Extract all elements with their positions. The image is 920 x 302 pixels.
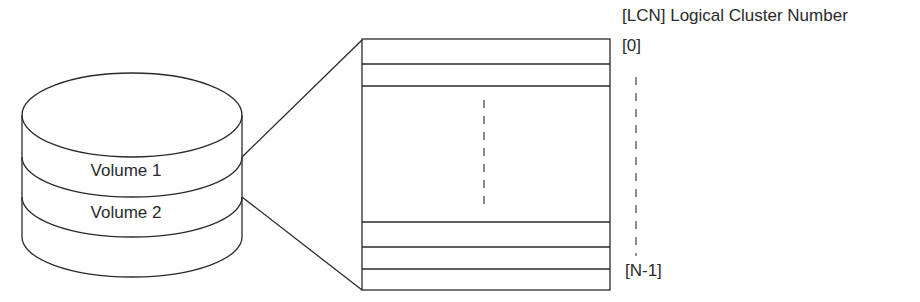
connector-bottom — [242, 197, 362, 290]
volume-1-label: Volume 1 — [91, 161, 162, 180]
lcn-header-label: [LCN] Logical Cluster Number — [622, 6, 848, 25]
connector-top — [242, 40, 362, 157]
cylinder-top — [22, 73, 242, 157]
cylinder-bottom — [22, 237, 242, 277]
lcn-last-index-label: [N-1] — [625, 261, 662, 280]
cluster-table-frame — [362, 39, 610, 290]
lcn-first-index-label: [0] — [622, 36, 641, 55]
cluster-table — [362, 39, 610, 290]
lcn-diagram: Volume 1 Volume 2 [LCN] Logical Cluster … — [0, 0, 920, 302]
volume-2-label: Volume 2 — [91, 203, 162, 222]
